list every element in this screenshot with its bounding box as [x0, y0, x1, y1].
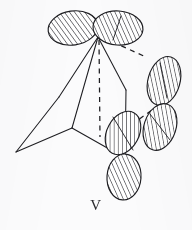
- orbital-figure: V: [0, 0, 192, 230]
- orbital-lobe-layer: [46, 8, 186, 201]
- apex-to-left-rear: [59, 37, 98, 97]
- figure-label: V: [0, 198, 192, 213]
- apex-to-mid-vertex: [72, 37, 98, 128]
- orbital-diagram-canvas: [0, 0, 192, 230]
- orbital-top-left-lobe: [46, 8, 100, 49]
- orbital-bottom: [105, 153, 142, 201]
- front-tip-to-mid-vertex: [16, 128, 72, 152]
- apex-vertical-dashed: [99, 40, 100, 137]
- orbital-top-left: [46, 8, 100, 49]
- left-rear-to-front-tip: [16, 97, 59, 152]
- orbital-bottom-lobe: [105, 153, 142, 201]
